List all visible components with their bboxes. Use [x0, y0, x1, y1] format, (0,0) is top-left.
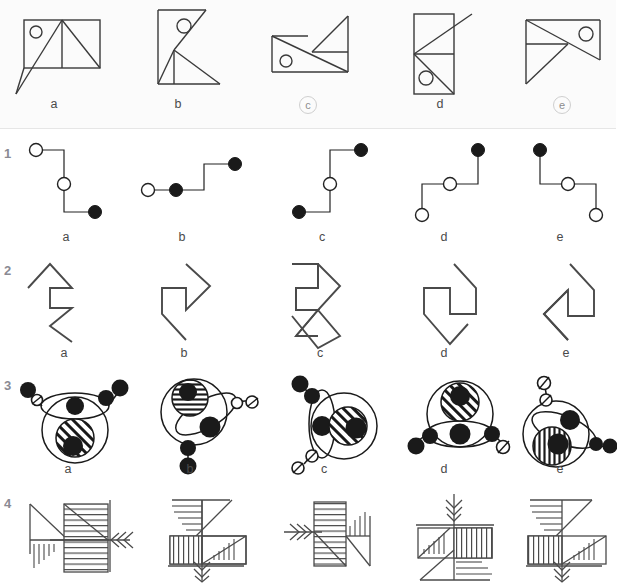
example-figure-a-svg [14, 12, 114, 104]
example-figure-a[interactable] [14, 12, 114, 104]
example-label-e-text: e [553, 96, 571, 114]
row1-figure-d-svg [410, 142, 510, 227]
row4-figure-d-svg [406, 492, 511, 585]
row2-figure-e[interactable] [522, 260, 617, 350]
row4-figure-e-svg [518, 492, 618, 585]
row1-figure-e-svg [528, 142, 621, 227]
row2-figure-b-svg [148, 260, 248, 350]
row2-figure-c[interactable] [282, 260, 382, 350]
row3-label-c: c [304, 462, 344, 476]
row-2-number: 2 [4, 263, 11, 278]
row-2: 2 [0, 260, 616, 365]
example-figure-c-svg [262, 8, 367, 94]
example-figure-c[interactable] [262, 8, 367, 94]
row3-figure-d-svg [402, 372, 517, 472]
row1-figure-c[interactable] [290, 142, 390, 227]
cut-off-header-text [150, 0, 470, 3]
row2-figure-d-svg [406, 260, 506, 350]
row4-figure-a-svg [22, 492, 137, 585]
row-4-number: 4 [4, 496, 11, 511]
row-1: 1 [0, 142, 616, 257]
row4-figure-e[interactable] [518, 492, 618, 585]
example-figure-b[interactable] [140, 6, 240, 106]
row1-label-d: d [424, 230, 464, 244]
example-label-e: e [542, 96, 582, 114]
row1-figure-a-svg [22, 142, 122, 227]
row1-figure-b-svg [140, 142, 250, 227]
row2-figure-d[interactable] [406, 260, 506, 350]
row1-label-a: a [46, 230, 86, 244]
row2-figure-a-svg [20, 260, 120, 345]
row3-label-e: e [540, 462, 580, 476]
example-panel: a b c d e [0, 0, 616, 129]
row2-label-b: b [164, 346, 204, 360]
row2-label-c: c [300, 346, 340, 360]
example-label-c: c [288, 96, 328, 114]
row-3: 3 [0, 372, 616, 482]
example-figure-d-svg [400, 6, 500, 106]
row-4: 4 [0, 492, 616, 585]
row2-figure-b[interactable] [148, 260, 248, 350]
row4-figure-b[interactable] [158, 492, 263, 585]
example-figure-b-svg [140, 6, 240, 106]
example-figure-e-svg [516, 12, 612, 98]
row1-figure-b[interactable] [140, 142, 250, 227]
row1-figure-c-svg [290, 142, 390, 227]
row3-figure-d[interactable] [402, 372, 517, 472]
row-3-number: 3 [4, 378, 11, 393]
row1-figure-d[interactable] [410, 142, 510, 227]
example-label-d: d [420, 97, 460, 111]
row1-figure-e[interactable] [528, 142, 621, 227]
example-label-b: b [158, 97, 198, 111]
row3-figure-a[interactable] [20, 372, 130, 472]
row2-label-a: a [44, 346, 84, 360]
row4-figure-b-svg [158, 492, 263, 585]
row2-label-d: d [424, 346, 464, 360]
row2-label-e: e [546, 346, 586, 360]
row2-figure-a[interactable] [20, 260, 120, 345]
example-figure-d[interactable] [400, 6, 500, 106]
row1-label-b: b [162, 230, 202, 244]
row1-label-e: e [540, 230, 580, 244]
example-label-a: a [34, 97, 74, 111]
row3-figure-a-svg [20, 372, 130, 472]
row1-figure-a[interactable] [22, 142, 122, 227]
row4-figure-a[interactable] [22, 492, 137, 585]
row3-label-a: a [48, 462, 88, 476]
example-figure-e[interactable] [516, 12, 612, 98]
example-label-c-text: c [299, 96, 317, 114]
row1-label-c: c [302, 230, 342, 244]
row4-figure-c-svg [282, 492, 402, 585]
row4-figure-c[interactable] [282, 492, 402, 585]
row3-label-b: b [170, 462, 210, 476]
row2-figure-c-svg [282, 260, 382, 350]
row4-figure-d[interactable] [406, 492, 511, 585]
row-1-number: 1 [4, 146, 11, 161]
row3-label-d: d [424, 462, 464, 476]
row2-figure-e-svg [522, 260, 617, 350]
